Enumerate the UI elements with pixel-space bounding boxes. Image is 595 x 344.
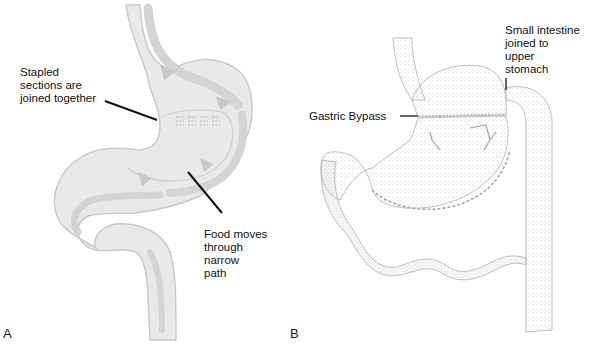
panel-a-stomach bbox=[54, 5, 252, 340]
panel-b-bypass bbox=[321, 38, 552, 332]
label-stapled-sections: Stapled sections are joined together bbox=[20, 66, 96, 105]
leader-line-stapled bbox=[105, 101, 157, 120]
panel-letter-b: B bbox=[290, 326, 299, 341]
label-food-moves: Food moves through narrow path bbox=[204, 228, 267, 280]
label-gastric-bypass: Gastric Bypass bbox=[309, 110, 386, 123]
panel-letter-a: A bbox=[3, 326, 12, 341]
label-small-intestine-joined: Small intestine joined to upper stomach bbox=[505, 24, 580, 76]
